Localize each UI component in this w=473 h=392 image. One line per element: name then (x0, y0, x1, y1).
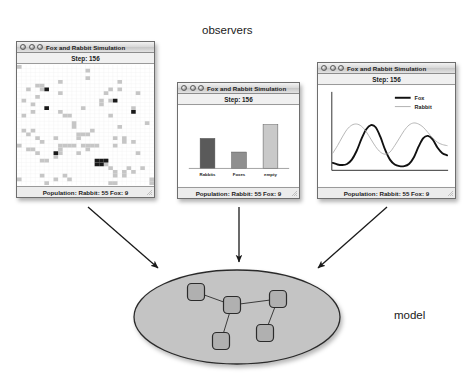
step-label-lines: Step: 156 (372, 76, 400, 83)
bar-label-empty: empty (264, 172, 277, 177)
population-status-bars: Population: Rabbit: 55 Fox: 9 (196, 190, 282, 197)
population-status-lines: Population: Rabbit: 55 Fox: 9 (344, 190, 430, 197)
model-edge (196, 292, 232, 305)
model-edge (232, 299, 278, 305)
line-chart-canvas[interactable]: FoxRabbit (318, 86, 455, 186)
bar-label-rabbits: Rabbits (200, 172, 216, 177)
bar-empty (263, 125, 278, 169)
grid-field-svg (17, 65, 154, 185)
node-top-right[interactable] (270, 291, 287, 308)
model-label: model (394, 309, 425, 321)
titlebar-grid[interactable]: Fox and Rabbit Simulation (17, 42, 154, 53)
minimize-button-icon[interactable] (190, 85, 196, 91)
window-title-bars: Fox and Rabbit Simulation (207, 85, 286, 92)
node-center[interactable] (224, 297, 241, 314)
bar-chart-svg: RabbitsFoxesempty (178, 106, 299, 186)
window-title-grid: Fox and Rabbit Simulation (46, 44, 125, 51)
legend-label-rabbit: Rabbit (415, 104, 432, 110)
observers-label: observers (202, 24, 253, 36)
status-bar-grid: Population: Rabbit: 55 Fox: 9 (17, 186, 154, 197)
window-grid-simulation[interactable]: Fox and Rabbit Simulation Step: 156 Popu… (16, 41, 155, 198)
bar-chart-canvas[interactable]: RabbitsFoxesempty (178, 106, 299, 186)
close-button-icon[interactable] (181, 85, 187, 91)
resize-grip-icon[interactable] (146, 189, 153, 196)
zoom-button-icon[interactable] (37, 44, 43, 50)
arrow-lines-to-model (318, 207, 387, 268)
bar-foxes (232, 152, 247, 168)
step-bar-lines: Step: 156 (318, 74, 455, 85)
step-bar-grid: Step: 156 (17, 53, 154, 64)
traffic-lights-grid[interactable] (20, 44, 43, 50)
window-bar-chart[interactable]: Fox and Rabbit Simulation Step: 156 Rabb… (177, 82, 300, 199)
titlebar-lines[interactable]: Fox and Rabbit Simulation (318, 63, 455, 74)
window-title-lines: Fox and Rabbit Simulation (347, 65, 426, 72)
zoom-button-icon[interactable] (198, 85, 204, 91)
grid-canvas[interactable] (17, 65, 154, 185)
traffic-lights-lines[interactable] (321, 65, 344, 71)
traffic-lights-bars[interactable] (181, 85, 204, 91)
status-bar-lines: Population: Rabbit: 55 Fox: 9 (318, 187, 455, 198)
step-label-bars: Step: 156 (224, 96, 252, 103)
model-edges (196, 292, 278, 341)
titlebar-bars[interactable]: Fox and Rabbit Simulation (178, 83, 299, 94)
window-line-chart[interactable]: Fox and Rabbit Simulation Step: 156 FoxR… (317, 62, 456, 199)
model-boundary-ellipse (134, 270, 340, 364)
node-bottom-left[interactable] (213, 333, 230, 350)
step-label-grid: Step: 156 (71, 55, 99, 62)
legend-label-fox: Fox (415, 95, 426, 101)
model-edge (221, 305, 232, 341)
close-button-icon[interactable] (20, 44, 26, 50)
minimize-button-icon[interactable] (29, 44, 35, 50)
resize-grip-icon[interactable] (447, 190, 454, 197)
status-bar-bars: Population: Rabbit: 55 Fox: 9 (178, 187, 299, 198)
close-button-icon[interactable] (321, 65, 327, 71)
resize-grip-icon[interactable] (291, 190, 298, 197)
line-chart-svg: FoxRabbit (318, 86, 455, 186)
bar-rabbits (200, 138, 215, 168)
step-bar-bars: Step: 156 (178, 94, 299, 105)
minimize-button-icon[interactable] (330, 65, 336, 71)
model-nodes[interactable] (188, 284, 287, 350)
bar-label-foxes: Foxes (233, 172, 246, 177)
zoom-button-icon[interactable] (338, 65, 344, 71)
population-status-grid: Population: Rabbit: 55 Fox: 9 (43, 189, 129, 196)
node-top-left[interactable] (188, 284, 205, 301)
model-edge (265, 299, 278, 333)
node-bottom-right[interactable] (257, 325, 274, 342)
arrow-grid-to-model (88, 207, 158, 268)
